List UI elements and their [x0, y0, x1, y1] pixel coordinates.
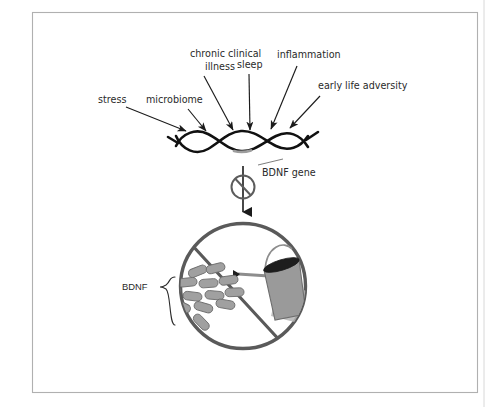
dna-bdnf-gene-segment: [234, 150, 251, 151]
label-stress: stress: [98, 94, 126, 105]
vesicle: [199, 278, 219, 288]
bucket-connector-stem: [238, 274, 269, 276]
label-sleep: sleep: [237, 59, 263, 70]
label-bdnf-gene: BDNF gene: [262, 167, 316, 178]
figure-root: stress microbiome chronic clinical illne…: [0, 0, 490, 407]
diagram-canvas: stress microbiome chronic clinical illne…: [0, 0, 490, 407]
label-early-life-adversity: early life adversity: [318, 80, 408, 91]
label-bdnf: BDNF: [122, 281, 148, 292]
label-chronic-clinical-illness-line2: illness: [205, 61, 235, 72]
label-inflammation: inflammation: [277, 49, 341, 60]
label-chronic-clinical-illness-line1: chronic clinical: [190, 48, 261, 59]
vesicle: [225, 288, 244, 297]
label-microbiome: microbiome: [146, 94, 203, 105]
